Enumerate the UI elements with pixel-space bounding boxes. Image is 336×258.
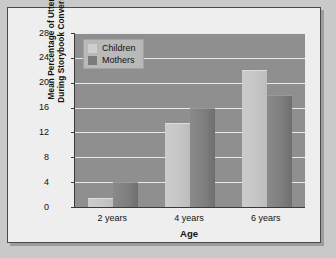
- y-tick-label-0: 0: [27, 203, 49, 212]
- y-tick-label-24: 24: [27, 53, 49, 62]
- gridline-28: [75, 33, 305, 34]
- y-tick-label-12: 12: [27, 128, 49, 137]
- plot-area: Children Mothers: [74, 33, 305, 208]
- y-tick-label-28: 28: [27, 29, 49, 38]
- y-tick-mark-12: [71, 132, 75, 133]
- bar-mothers-2-years: [113, 182, 138, 207]
- bar-mothers-6-years: [267, 95, 292, 207]
- y-tick-mark-8: [71, 157, 75, 158]
- bar-children-2-years: [88, 198, 113, 207]
- gridline-0: [75, 207, 305, 208]
- x-tick-label-6-years: 6 years: [231, 213, 301, 223]
- y-tick-mark-16: [71, 108, 75, 109]
- legend-label-mothers: Mothers: [102, 55, 135, 65]
- y-tick-mark-0: [71, 207, 75, 208]
- bar-children-6-years: [242, 70, 267, 207]
- y-tick-label-20: 20: [27, 78, 49, 87]
- x-tick-label-4-years: 4 years: [154, 213, 224, 223]
- bar-mothers-4-years: [190, 108, 215, 207]
- y-tick-label-8: 8: [27, 153, 49, 162]
- legend-item-children: Children: [88, 43, 136, 53]
- y-axis-title-line-2: During Storybook Conversations: [57, 0, 68, 103]
- figure-frame: Mean Percentage of Utterances During Sto…: [7, 7, 321, 243]
- y-tick-mark-20: [71, 83, 75, 84]
- y-tick-label-4: 4: [27, 178, 49, 187]
- bar-children-4-years: [165, 123, 190, 208]
- gridline-20: [75, 83, 305, 84]
- legend-swatch-children-icon: [88, 44, 97, 53]
- legend-item-mothers: Mothers: [88, 55, 136, 65]
- y-tick-mark-24: [71, 58, 75, 59]
- legend-swatch-mothers-icon: [88, 56, 97, 65]
- x-axis-title: Age: [74, 228, 304, 239]
- y-tick-mark-28: [71, 33, 75, 34]
- x-tick-label-2-years: 2 years: [77, 213, 147, 223]
- y-tick-label-16: 16: [27, 103, 49, 112]
- y-tick-mark-4: [71, 182, 75, 183]
- chart-legend: Children Mothers: [83, 39, 144, 69]
- legend-label-children: Children: [102, 43, 136, 53]
- figure-root: Mean Percentage of Utterances During Sto…: [0, 0, 336, 258]
